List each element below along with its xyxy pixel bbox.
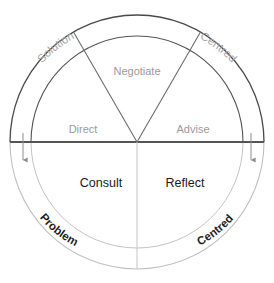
sector-label-consult: Consult xyxy=(80,176,123,190)
wheel-svg: Direct Negotiate Advise Consult Reflect … xyxy=(0,0,274,283)
sector-label-advise: Advise xyxy=(176,123,209,135)
ring-label-centred-top: Centred xyxy=(199,30,240,65)
outer-arc-top xyxy=(10,15,264,142)
sector-label-negotiate: Negotiate xyxy=(113,65,160,77)
inner-arc-top xyxy=(31,36,243,142)
sector-label-direct: Direct xyxy=(69,123,98,135)
sector-label-reflect: Reflect xyxy=(166,176,205,190)
coaching-wheel-diagram: Direct Negotiate Advise Consult Reflect … xyxy=(0,0,274,283)
